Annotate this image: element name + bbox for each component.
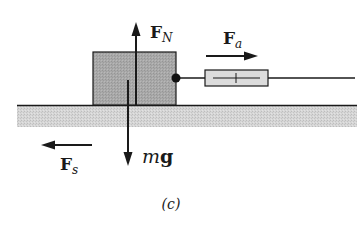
ground bbox=[17, 106, 357, 128]
block bbox=[93, 52, 176, 105]
weight-label: mg bbox=[142, 145, 173, 167]
free-body-diagram: FN mg Fa Fs (c) bbox=[0, 0, 362, 228]
attachment-point bbox=[172, 74, 181, 83]
normal-force-label: FN bbox=[150, 22, 173, 45]
friction-force-arrow bbox=[41, 141, 92, 150]
applied-force-label: Fa bbox=[223, 28, 242, 51]
figure-caption: (c) bbox=[162, 196, 181, 212]
spring-scale-assembly bbox=[172, 70, 356, 86]
friction-force-label: Fs bbox=[60, 154, 78, 177]
applied-force-arrow bbox=[206, 52, 258, 61]
